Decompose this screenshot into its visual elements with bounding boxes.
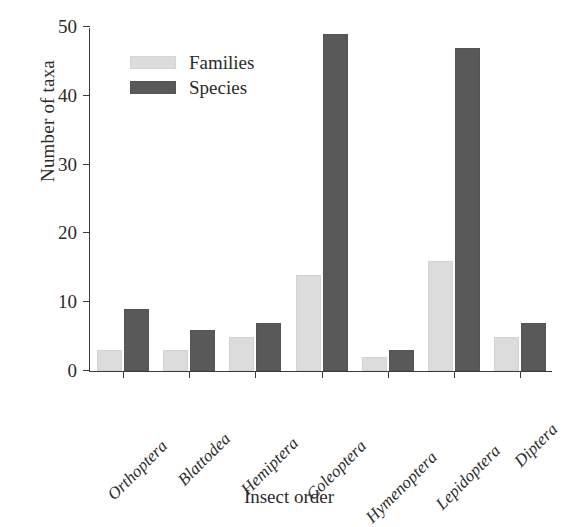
- y-tick: 10: [83, 301, 90, 302]
- y-tick: 40: [83, 95, 90, 96]
- y-axis-title: Number of taxa: [37, 1, 59, 241]
- x-tick-label: Blattodea: [175, 430, 234, 489]
- x-tick: [388, 371, 389, 378]
- y-tick-label: 20: [58, 224, 77, 243]
- legend-swatch-species-icon: [130, 81, 176, 94]
- y-tick: 50: [83, 26, 90, 27]
- y-tick-label: 50: [58, 17, 77, 36]
- legend-label-families: Families: [189, 53, 254, 72]
- chart-legend: Families Species: [130, 50, 254, 100]
- bar-families-diptera: [494, 337, 519, 371]
- y-tick-label: 30: [58, 155, 77, 174]
- y-tick-label: 10: [58, 292, 77, 311]
- x-tick: [255, 371, 256, 378]
- legend-item-families: Families: [130, 50, 254, 75]
- y-tick-label: 40: [58, 86, 77, 105]
- legend-item-species: Species: [130, 75, 254, 100]
- x-axis-title: Insect order: [0, 486, 578, 508]
- legend-label-species: Species: [189, 78, 247, 97]
- plot-area: 01020304050 Families Species: [89, 28, 552, 372]
- y-tick: 30: [83, 164, 90, 165]
- y-tick: 20: [83, 232, 90, 233]
- y-tick-label: 0: [68, 361, 78, 380]
- legend-swatch-families-icon: [130, 56, 176, 69]
- x-tick-label: Diptera: [511, 420, 560, 469]
- x-tick: [123, 371, 124, 378]
- x-tick: [189, 371, 190, 378]
- bar-species-diptera: [521, 323, 546, 371]
- y-tick: 0: [83, 370, 90, 371]
- x-tick: [520, 371, 521, 378]
- x-tick: [454, 371, 455, 378]
- x-tick: [322, 371, 323, 378]
